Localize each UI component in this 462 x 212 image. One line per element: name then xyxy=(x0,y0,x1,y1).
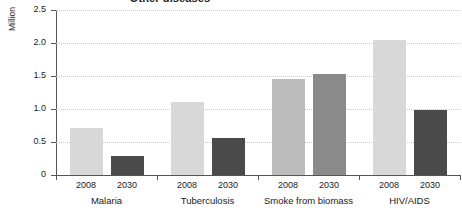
x-tick-label-year: 2008 xyxy=(63,180,109,190)
x-group-label: Malaria xyxy=(56,195,157,206)
x-group-tick xyxy=(258,175,259,180)
x-group-label: Tuberculosis xyxy=(157,195,258,206)
bar xyxy=(414,110,447,175)
bar xyxy=(70,128,103,175)
y-tick-label: 2.5 xyxy=(0,4,46,14)
y-tick-mark xyxy=(51,76,56,77)
plot-area xyxy=(56,10,460,175)
y-tick-mark xyxy=(51,10,56,11)
x-tick-label-year: 2008 xyxy=(265,180,311,190)
y-tick-label: 2.0 xyxy=(0,37,46,47)
bar xyxy=(313,74,346,175)
x-group-label: Smoke from biomass xyxy=(258,195,359,206)
x-group-tick xyxy=(56,175,57,180)
x-tick-label-year: 2030 xyxy=(205,180,251,190)
y-tick-label: 1.0 xyxy=(0,103,46,113)
chart-title: Other diseases xyxy=(90,0,250,4)
y-tick-label: 1.5 xyxy=(0,70,46,80)
x-group-tick xyxy=(359,175,360,180)
chart-container: Other diseases Million 00.51.01.52.02.5 … xyxy=(0,0,462,212)
x-group-tick xyxy=(460,175,461,180)
x-tick-label-year: 2008 xyxy=(366,180,412,190)
y-tick-label: 0 xyxy=(0,169,46,179)
x-tick-label-year: 2030 xyxy=(407,180,453,190)
bar xyxy=(212,138,245,175)
x-tick-label-year: 2030 xyxy=(104,180,150,190)
gridline xyxy=(56,10,460,11)
bar xyxy=(272,79,305,175)
y-tick-mark xyxy=(51,142,56,143)
y-tick-mark xyxy=(51,109,56,110)
y-tick-label: 0.5 xyxy=(0,136,46,146)
bar xyxy=(373,40,406,175)
bar xyxy=(111,156,144,175)
y-tick-mark xyxy=(51,43,56,44)
x-tick-label-year: 2008 xyxy=(164,180,210,190)
x-tick-label-year: 2030 xyxy=(306,180,352,190)
x-group-tick xyxy=(157,175,158,180)
x-group-label: HIV/AIDS xyxy=(359,195,460,206)
bar xyxy=(171,102,204,175)
